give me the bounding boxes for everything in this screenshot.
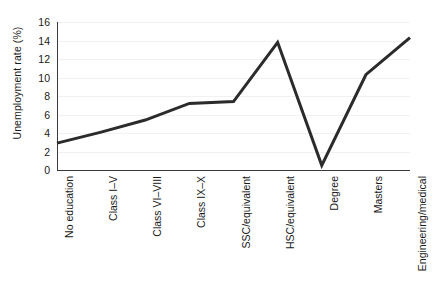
y-axis-title: Unemployment rate (%) <box>8 0 26 168</box>
x-tick-label: Masters <box>371 176 385 293</box>
x-tick-label: HSC/equivalent <box>283 176 297 293</box>
data-line-series <box>57 22 410 171</box>
y-tick-label: 0 <box>28 165 50 175</box>
x-tick-label: Class VI–VIII <box>150 176 164 293</box>
y-tick-label: 6 <box>28 110 50 120</box>
y-tick-label: 14 <box>28 36 50 46</box>
x-tick-label: Class IX–X <box>194 176 208 293</box>
y-tick-label: 16 <box>28 17 50 27</box>
y-tick-label: 10 <box>28 73 50 83</box>
x-tick-label: Engineering/medical <box>415 176 429 293</box>
x-tick-label: Class I–V <box>106 176 120 293</box>
y-tick-label: 4 <box>28 128 50 138</box>
y-tick-label: 8 <box>28 91 50 101</box>
x-tick-label: SSC/equivalent <box>239 176 253 293</box>
x-tick-label: Degree <box>327 176 341 293</box>
y-tick-label: 12 <box>28 54 50 64</box>
chart-figure: Unemployment rate (%) 0246810121416 No e… <box>0 0 441 293</box>
series-polyline <box>57 38 410 166</box>
y-tick-label: 2 <box>28 147 50 157</box>
x-tick-label: No education <box>62 176 76 293</box>
